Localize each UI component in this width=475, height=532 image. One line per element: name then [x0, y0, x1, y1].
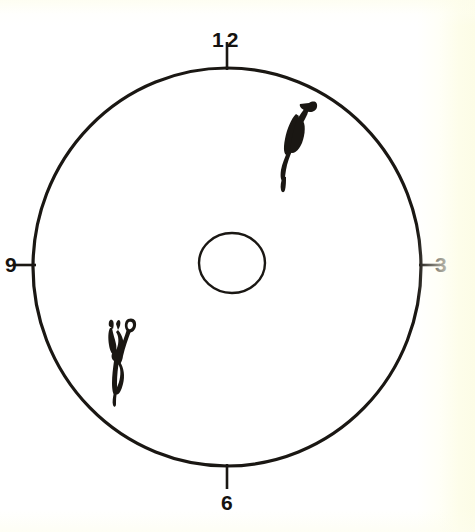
- clock-label-3: 3: [435, 254, 447, 275]
- limbus-outline: [33, 68, 421, 466]
- figure-sheet: 12 3 6 9: [0, 0, 475, 532]
- clock-label-9: 9: [5, 254, 17, 275]
- optic-disc-outline: [199, 233, 265, 293]
- clock-label-6: 6: [221, 492, 233, 513]
- lower-left-lesion: [108, 318, 136, 406]
- upper-right-lesion: [281, 102, 318, 193]
- clock-label-12: 12: [212, 29, 241, 50]
- fundus-diagram: [0, 0, 475, 532]
